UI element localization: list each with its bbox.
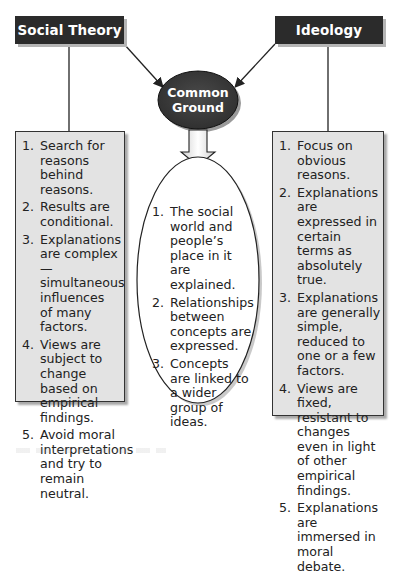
ideology-box: 1.Focus on obvious reasons. 2.Explanatio…: [272, 131, 384, 416]
common-ground-item: 3.Concepts are linked to a wider group o…: [148, 357, 252, 430]
social-theory-item: 2.Results are conditional.: [18, 200, 120, 229]
common-ground-label-line1: Common: [158, 85, 238, 100]
social-theory-box: 1.Search for reasons behind reasons. 2.R…: [15, 131, 125, 402]
social-theory-item: 3.Explanations are complex— simultaneous…: [18, 233, 120, 335]
common-ground-node: Common Ground: [158, 85, 238, 115]
social-theory-item: 4.Views are subject to change based on e…: [18, 338, 120, 426]
social-theory-header: Social Theory: [15, 16, 124, 44]
faded-caption: [16, 448, 166, 453]
ideology-item: 4.Views are fixed, resistant to changes …: [275, 382, 381, 499]
ideology-list: 1.Focus on obvious reasons. 2.Explanatio…: [275, 139, 381, 574]
common-ground-oval: 1.The social world and people’s place in…: [148, 205, 252, 433]
ideology-header: Ideology: [275, 16, 383, 44]
common-ground-item: 2.Relationships between concepts are exp…: [148, 296, 252, 354]
common-ground-label-line2: Ground: [158, 100, 238, 115]
social-theory-header-label: Social Theory: [17, 22, 121, 38]
social-theory-list: 1.Search for reasons behind reasons. 2.R…: [18, 139, 120, 501]
ideology-item: 5.Explanations are immersed in moral deb…: [275, 501, 381, 574]
social-theory-item: 1.Search for reasons behind reasons.: [18, 139, 120, 197]
ideology-header-label: Ideology: [296, 22, 362, 38]
common-ground-item: 1.The social world and people’s place in…: [148, 205, 252, 293]
social-theory-item: 5.Avoid moral interpretations and try to…: [18, 428, 120, 501]
common-ground-list: 1.The social world and people’s place in…: [148, 205, 252, 430]
ideology-item: 1.Focus on obvious reasons.: [275, 139, 381, 183]
ideology-item: 3.Explanations are generally simple, red…: [275, 291, 381, 379]
ideology-item: 2.Explanations are expressed in certain …: [275, 186, 381, 288]
